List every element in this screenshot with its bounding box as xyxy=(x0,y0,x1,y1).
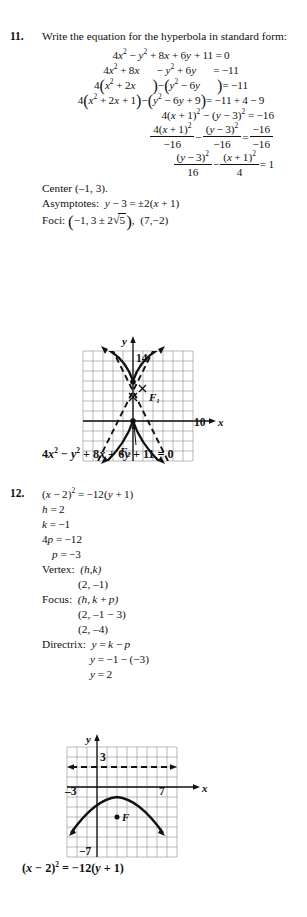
problem-12-step-2: h = 2 xyxy=(42,502,300,517)
problem-12-step-4: 4p = −12 xyxy=(42,532,300,547)
worksheet-page: 11. Write the equation for the hyperbola… xyxy=(0,0,307,917)
x-axis-arrow xyxy=(193,784,200,789)
problem-11-body: Write the equation for the hyperbola in … xyxy=(42,30,300,229)
problem-11-step-5: 4(x + 1)2 − (y − 3)2 = −16 xyxy=(42,108,300,123)
y-axis-arrow xyxy=(94,734,99,741)
problem-11-number: 11. xyxy=(10,30,36,42)
problem-12-directrix-line: Directrix: y = k − p xyxy=(42,637,300,652)
problem-12-step-5: p = −3 xyxy=(42,547,300,562)
problem-12-step-1: (x − 2)2 = −12(y + 1) xyxy=(42,487,300,502)
fraction-left-y: (y − 3)2 −16 xyxy=(203,123,242,150)
problem-11-foci-line: Foci: (−1, 3 ± 2√5), (7,−2) xyxy=(42,211,300,229)
x-tick-label: 10 xyxy=(194,416,206,428)
problem-11-step-6: 4(x + 1)2 −16 − (y − 3)2 −16 = −16 −16 xyxy=(42,123,300,151)
problem-11-center-line: Center (–1, 3). xyxy=(42,181,300,196)
focus-point-f2 xyxy=(130,418,136,424)
center-value: (–1, 3). xyxy=(75,182,108,194)
parabola-graph-svg: F y x 3 –3 7 −7 xyxy=(55,733,230,863)
problem-12-graph: F y x 3 –3 7 −7 xyxy=(55,733,230,863)
y-tick-label: 14 xyxy=(136,352,148,364)
problem-11-step-2: 4x2 + 8x− y2 + 6y= −11 xyxy=(42,63,300,78)
vertex-label: Vertex: xyxy=(42,563,75,575)
y-axis-arrow xyxy=(130,336,135,343)
focus-label: Focus: xyxy=(42,593,72,605)
y-axis-label: y xyxy=(120,335,127,347)
problem-11-asymptotes-line: Asymptotes: y − 3 = ±2(x + 1) xyxy=(42,196,300,211)
problem-11-step-3: 4(x2 + 2x)−(y2 − 6y)= −11 xyxy=(42,78,300,93)
fraction-right-const: −16 −16 xyxy=(250,123,274,150)
center-label: Center xyxy=(42,182,72,194)
problem-12-number: 12. xyxy=(10,487,36,499)
problem-12-vertex-value: (2, –1) xyxy=(42,577,300,592)
focus-label: F xyxy=(121,811,130,823)
problem-12-focus-line: Focus: (h, k + p) xyxy=(42,592,300,607)
problem-11-answer: 4x2 − y2 + 8x + 6y + 11 = 0 xyxy=(42,447,174,462)
problem-12-focus-value-2: (2, –4) xyxy=(42,622,300,637)
problem-12-directrix-value-2: y = 2 xyxy=(42,667,300,682)
problem-12-directrix-value-1: y = −1 − (−3) xyxy=(42,652,300,667)
focus-label-f1: F₁ xyxy=(148,391,160,403)
fraction-x-term: (x + 1)2 4 xyxy=(220,151,259,178)
focus-point-f1 xyxy=(130,379,136,385)
foci-label: Foci: xyxy=(42,214,65,226)
fraction-left-x: 4(x + 1)2 −16 xyxy=(150,123,194,150)
x-axis-label: x xyxy=(201,782,208,794)
asymptotes-label: Asymptotes: xyxy=(42,197,99,209)
problem-12-step-3: k = −1 xyxy=(42,517,300,532)
x-tick-label-left: –3 xyxy=(64,785,77,797)
problem-11-step-4: 4(x2 + 2x + 1)−(y2 − 6y + 9)= −11 + 4 − … xyxy=(42,93,300,108)
problem-12-body: (x − 2)2 = −12(y + 1) h = 2 k = −1 4p = … xyxy=(42,487,300,682)
x-tick-label-right: 7 xyxy=(159,785,165,797)
y-tick-label-top: 3 xyxy=(100,751,106,763)
y-axis-label: y xyxy=(84,733,91,745)
focus-point xyxy=(115,815,120,820)
problem-12-answer: (x − 2)2 = −12(y + 1) xyxy=(22,861,124,876)
x-axis-label: x xyxy=(217,416,224,428)
problem-11-step-1: 4x2 − y2 + 8x + 6y + 11 = 0 xyxy=(42,48,300,63)
problem-11-step-7: (y − 3)2 16 − (x + 1)2 4 = 1 xyxy=(42,150,300,178)
directrix-label: Directrix: xyxy=(42,638,86,650)
problem-12-vertex-line: Vertex: (h,k) xyxy=(42,562,300,577)
problem-12-focus-value-1: (2, –1 − 3) xyxy=(42,607,300,622)
grid-lines xyxy=(67,747,177,857)
fraction-y-term: (y − 3)2 16 xyxy=(174,151,213,178)
problem-11-prompt: Write the equation for the hyperbola in … xyxy=(42,30,300,44)
y-tick-label-bottom: −7 xyxy=(79,845,92,857)
x-axis-arrow xyxy=(209,418,216,423)
